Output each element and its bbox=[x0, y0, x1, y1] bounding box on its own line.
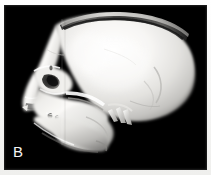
ct-image-area: B bbox=[4, 5, 207, 170]
panel-label: B bbox=[13, 144, 24, 159]
figure-panel-b: B bbox=[0, 0, 211, 175]
skull-3d-render bbox=[4, 5, 207, 170]
